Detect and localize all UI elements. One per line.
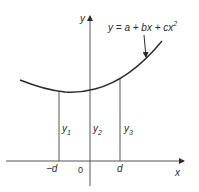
x-axis-label: x bbox=[174, 167, 181, 178]
y-axis-label: y bbox=[79, 13, 86, 24]
parabola-curve bbox=[20, 41, 162, 92]
tick-label-d: d bbox=[117, 163, 123, 174]
equation-label: y = a + bx + cx2 bbox=[107, 20, 177, 33]
ordinate-label-y3: y3 bbox=[123, 123, 133, 136]
parabola-diagram: y = a + bx + cx2 y y1 y2 y3 −d 0 d x bbox=[0, 0, 199, 192]
ordinate-label-y2: y2 bbox=[92, 123, 102, 136]
ordinate-label-y1: y1 bbox=[61, 123, 71, 136]
tick-label-minus-d: −d bbox=[46, 163, 58, 174]
equation-pointer-arrow bbox=[144, 35, 146, 57]
origin-label: 0 bbox=[78, 165, 83, 175]
